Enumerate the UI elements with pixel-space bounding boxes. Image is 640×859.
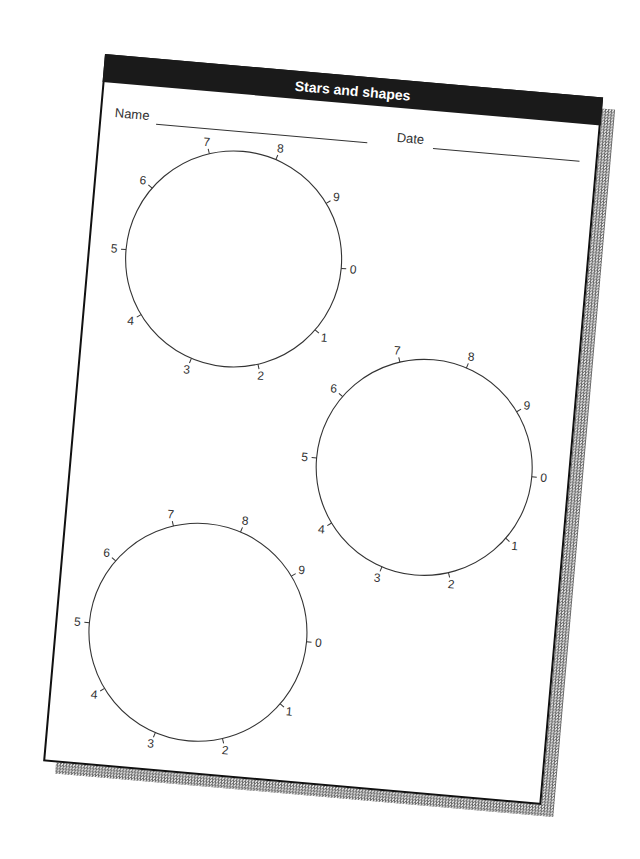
- dial-tick: [112, 558, 116, 561]
- dial-tick: [505, 538, 509, 541]
- dial-tick: [241, 527, 243, 532]
- dial-circle: [80, 514, 316, 750]
- dial-number-label: 3: [183, 362, 191, 377]
- dials-canvas: 012345678901234567890123456789: [45, 56, 605, 807]
- worksheet-page: Stars and shapes Name Date 0123456789012…: [43, 54, 603, 805]
- dial-2[interactable]: 0123456789: [291, 336, 558, 599]
- dial-number-label: 0: [540, 471, 548, 486]
- dial-tick: [291, 573, 295, 576]
- dial-3[interactable]: 0123456789: [63, 500, 332, 765]
- dial-number-label: 9: [298, 563, 306, 578]
- dial-1[interactable]: 0123456789: [100, 128, 367, 391]
- dial-tick: [208, 149, 210, 154]
- dial-number-label: 2: [257, 369, 265, 384]
- dial-number-label: 6: [103, 546, 111, 561]
- dial-number-label: 5: [301, 450, 309, 465]
- dial-tick: [315, 330, 319, 333]
- dial-tick: [100, 688, 104, 691]
- dial-tick: [466, 363, 468, 368]
- dial-tick: [326, 200, 330, 203]
- dial-number-label: 1: [511, 539, 519, 554]
- dial-number-label: 6: [330, 381, 338, 396]
- dial-number-label: 6: [139, 173, 147, 188]
- dial-number-label: 7: [393, 343, 401, 358]
- dial-number-label: 8: [241, 514, 249, 529]
- dial-number-label: 1: [320, 330, 328, 345]
- dial-number-label: 7: [167, 507, 175, 522]
- dial-tick: [137, 314, 141, 317]
- dial-number-label: 0: [315, 636, 323, 651]
- dial-number-label: 9: [523, 398, 531, 413]
- dial-number-label: 4: [317, 522, 325, 537]
- dial-tick: [148, 185, 152, 188]
- dial-number-label: 0: [349, 262, 357, 277]
- dial-number-label: 9: [333, 190, 341, 205]
- dial-tick: [517, 409, 521, 412]
- dial-tick: [398, 357, 400, 362]
- dial-number-label: 5: [110, 241, 118, 256]
- dial-circle: [117, 142, 351, 376]
- worksheet-sheet: Stars and shapes Name Date 0123456789012…: [43, 54, 603, 805]
- dial-number-label: 2: [221, 743, 229, 758]
- dial-number-label: 7: [203, 135, 211, 150]
- dial-number-label: 8: [277, 141, 285, 156]
- dial-number-label: 8: [467, 350, 475, 365]
- dial-tick: [280, 704, 284, 707]
- dial-tick: [327, 523, 331, 526]
- dial-circle: [307, 350, 541, 584]
- dial-tick: [276, 155, 278, 160]
- dial-number-label: 2: [447, 577, 455, 592]
- dial-tick: [339, 393, 343, 396]
- dial-number-label: 5: [73, 614, 81, 629]
- dial-tick: [172, 521, 174, 526]
- dial-number-label: 3: [373, 571, 381, 586]
- dial-number-label: 4: [90, 687, 98, 702]
- dial-number-label: 4: [127, 314, 135, 329]
- dial-number-label: 1: [285, 704, 293, 719]
- dial-number-label: 3: [147, 736, 155, 751]
